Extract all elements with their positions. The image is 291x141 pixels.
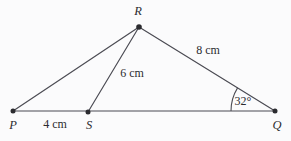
vertex-label-q: Q bbox=[272, 119, 281, 132]
segment-rq bbox=[139, 27, 275, 111]
geometry-diagram: P S Q R 4 cm 6 cm 8 cm 32° bbox=[0, 0, 291, 141]
length-label-sr: 6 cm bbox=[120, 67, 144, 79]
angle-label-rqp: 32° bbox=[235, 95, 252, 107]
vertex-dot-q bbox=[273, 109, 278, 114]
vertex-dot-r bbox=[136, 24, 142, 30]
vertex-dot-p bbox=[11, 109, 16, 114]
vertex-label-p: P bbox=[9, 119, 17, 132]
vertex-label-s: S bbox=[86, 119, 92, 132]
length-label-rq: 8 cm bbox=[196, 44, 220, 56]
vertex-label-r: R bbox=[134, 5, 142, 18]
length-label-ps: 4 cm bbox=[43, 118, 67, 130]
vertex-dot-s bbox=[86, 110, 91, 115]
